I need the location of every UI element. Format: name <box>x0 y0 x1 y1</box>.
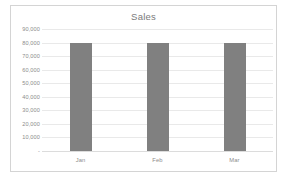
y-axis-tick-label: 60,000 <box>22 67 40 73</box>
y-axis-tick-label: 30,000 <box>22 107 40 113</box>
chart-title[interactable]: Sales <box>11 11 276 22</box>
bar[interactable] <box>70 43 92 151</box>
x-axis[interactable]: JanFebMar <box>42 151 273 163</box>
y-axis-tick-label: 10,000 <box>22 134 40 140</box>
bar-slot <box>196 29 273 151</box>
bar[interactable] <box>147 43 169 151</box>
y-axis-tick-label: 70,000 <box>22 53 40 59</box>
y-axis-tick-label: 80,000 <box>22 40 40 46</box>
screenshot-canvas: Sales 90,00080,00070,00060,00050,00040,0… <box>0 0 284 178</box>
y-axis-tick-label: - <box>38 148 40 154</box>
x-axis-tick-label: Jan <box>42 151 119 163</box>
y-axis-tick-label: 90,000 <box>22 26 40 32</box>
x-axis-tick-label: Feb <box>119 151 196 163</box>
bar-slot <box>119 29 196 151</box>
y-axis[interactable]: 90,00080,00070,00060,00050,00040,00030,0… <box>13 29 40 151</box>
y-axis-tick-label: 20,000 <box>22 121 40 127</box>
bar[interactable] <box>224 43 246 151</box>
chart-object[interactable]: Sales 90,00080,00070,00060,00050,00040,0… <box>10 5 277 172</box>
y-axis-tick-label: 50,000 <box>22 80 40 86</box>
y-axis-tick-label: 40,000 <box>22 94 40 100</box>
plot-area[interactable]: 90,00080,00070,00060,00050,00040,00030,0… <box>42 29 273 151</box>
bar-series <box>42 29 273 151</box>
bar-slot <box>42 29 119 151</box>
x-axis-tick-label: Mar <box>196 151 273 163</box>
